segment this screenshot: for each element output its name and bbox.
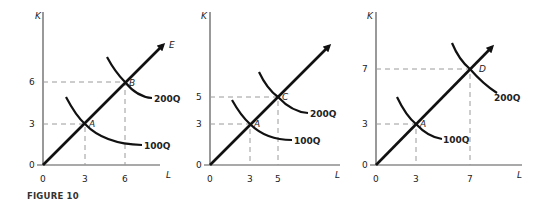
x-tick-3: 3 (247, 174, 253, 184)
figure-caption: FIGURE 10 (27, 191, 79, 201)
y-tick-7: 7 (362, 64, 368, 74)
l-axis-label: L (166, 170, 171, 180)
x-tick-7: 7 (467, 174, 473, 184)
x-tick-6: 6 (122, 174, 128, 184)
y-tick-6: 6 (29, 77, 35, 87)
panel-2-increasing-returns: K L 0 3 5 0 3 5 A C 100Q 200Q (196, 11, 340, 184)
ray-label-e: E (169, 40, 175, 50)
point-d-label: D (479, 64, 486, 74)
x-tick-3: 3 (413, 174, 419, 184)
isoquant-100q-label: 100Q (443, 135, 470, 145)
k-axis-label: K (367, 11, 374, 21)
y-tick-0: 0 (362, 160, 368, 170)
point-b-label: B (129, 78, 135, 88)
point-a-label: A (253, 119, 260, 129)
x-tick-0: 0 (373, 174, 379, 184)
panel-1-constant-returns: K L 0 3 6 0 3 6 E A B 100Q 200Q (29, 11, 181, 184)
expansion-ray (376, 47, 492, 165)
y-tick-3: 3 (196, 119, 202, 129)
y-tick-5: 5 (196, 92, 202, 102)
isoquant-200q-label: 200Q (154, 94, 181, 104)
isoquant-200q-label: 200Q (310, 109, 337, 119)
isoquant-200q-label: 200Q (494, 93, 521, 103)
expansion-ray (210, 46, 329, 165)
point-a-label: A (419, 119, 426, 129)
y-tick-0: 0 (196, 160, 202, 170)
figure-canvas: K L 0 3 6 0 3 6 E A B 100Q 200Q K L 0 3 … (0, 0, 546, 209)
k-axis-label: K (201, 11, 208, 21)
y-tick-0: 0 (29, 160, 35, 170)
x-tick-5: 5 (275, 174, 281, 184)
isoquant-100q-label: 100Q (294, 136, 321, 146)
point-a-label: A (88, 119, 95, 129)
panel-3-decreasing-returns: K L 0 3 7 0 3 7 A D 100Q 200Q (362, 11, 522, 184)
x-tick-0: 0 (40, 174, 46, 184)
x-tick-3: 3 (82, 174, 88, 184)
y-tick-3: 3 (29, 119, 35, 129)
l-axis-label: L (335, 170, 340, 180)
x-tick-0: 0 (207, 174, 213, 184)
y-tick-3: 3 (362, 119, 368, 129)
k-axis-label: K (35, 11, 42, 21)
l-axis-label: L (517, 170, 522, 180)
isoquant-100q-label: 100Q (144, 141, 171, 151)
point-c-label: C (282, 92, 289, 102)
